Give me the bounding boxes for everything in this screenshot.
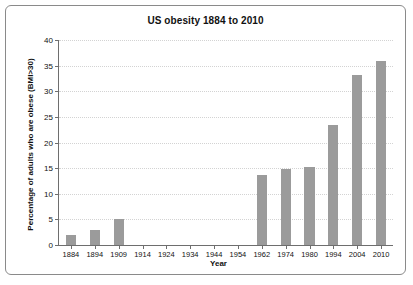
x-axis-tick xyxy=(214,245,215,249)
y-axis-label: Percentage of adults who are obese (BMI>… xyxy=(26,45,35,245)
gridline xyxy=(59,117,393,118)
gridline xyxy=(59,194,393,195)
x-axis-tick-label: 1914 xyxy=(134,250,151,259)
x-axis-tick-label: 1924 xyxy=(158,250,175,259)
bar-1994 xyxy=(328,125,338,245)
y-axis-tick xyxy=(55,219,59,220)
gridline xyxy=(59,40,393,41)
chart-figure: US obesity 1884 to 2010 Percentage of ad… xyxy=(5,5,406,275)
x-axis-tick xyxy=(333,245,334,249)
y-axis-tick xyxy=(55,245,59,246)
x-axis-tick-label: 1962 xyxy=(253,250,270,259)
x-axis-tick xyxy=(262,245,263,249)
x-axis-tick xyxy=(95,245,96,249)
bar-1909 xyxy=(114,219,124,245)
bar-1962 xyxy=(257,175,267,245)
y-axis-tick-label: 30 xyxy=(44,87,53,96)
x-axis-tick-label: 1934 xyxy=(182,250,199,259)
gridline xyxy=(59,168,393,169)
gridline xyxy=(59,66,393,67)
y-axis-tick-label: 5 xyxy=(49,215,53,224)
x-axis-tick xyxy=(310,245,311,249)
x-axis-tick xyxy=(166,245,167,249)
x-axis-tick xyxy=(381,245,382,249)
x-axis-tick xyxy=(286,245,287,249)
plot-area: 0510152025303540188418941909191419241934… xyxy=(58,40,393,246)
bar-1974 xyxy=(281,169,291,245)
y-axis-tick xyxy=(55,91,59,92)
y-axis-tick xyxy=(55,194,59,195)
x-axis-tick xyxy=(190,245,191,249)
x-axis-tick-label: 1909 xyxy=(110,250,127,259)
x-axis-tick-label: 1944 xyxy=(206,250,223,259)
y-axis-tick-label: 15 xyxy=(44,164,53,173)
y-axis-tick xyxy=(55,66,59,67)
y-axis-tick-label: 40 xyxy=(44,36,53,45)
x-axis-tick xyxy=(71,245,72,249)
y-axis-tick-label: 25 xyxy=(44,112,53,121)
x-axis-tick-label: 1894 xyxy=(86,250,103,259)
x-axis-tick xyxy=(238,245,239,249)
bar-2010 xyxy=(376,61,386,246)
x-axis-tick-label: 1884 xyxy=(63,250,80,259)
y-axis-tick-label: 10 xyxy=(44,189,53,198)
x-axis-tick-label: 1994 xyxy=(325,250,342,259)
gridline xyxy=(59,143,393,144)
gridline xyxy=(59,91,393,92)
y-axis-tick-label: 35 xyxy=(44,61,53,70)
bar-1884 xyxy=(66,235,76,245)
x-axis-tick xyxy=(357,245,358,249)
y-axis-tick xyxy=(55,117,59,118)
x-axis-tick-label: 2004 xyxy=(349,250,366,259)
x-axis-tick xyxy=(119,245,120,249)
bar-1980 xyxy=(304,167,314,245)
x-axis-tick xyxy=(143,245,144,249)
bar-1894 xyxy=(90,230,100,245)
bar-2004 xyxy=(352,75,362,245)
y-axis-tick-label: 0 xyxy=(49,241,53,250)
y-axis-tick xyxy=(55,40,59,41)
x-axis-tick-label: 1974 xyxy=(277,250,294,259)
x-axis-tick-label: 1980 xyxy=(301,250,318,259)
y-axis-tick-label: 20 xyxy=(44,138,53,147)
y-axis-tick xyxy=(55,143,59,144)
y-axis-tick xyxy=(55,168,59,169)
x-axis-tick-label: 2010 xyxy=(373,250,390,259)
gridline xyxy=(59,219,393,220)
chart-title: US obesity 1884 to 2010 xyxy=(6,15,405,26)
x-axis-label: Year xyxy=(30,259,407,268)
x-axis-tick-label: 1954 xyxy=(230,250,247,259)
